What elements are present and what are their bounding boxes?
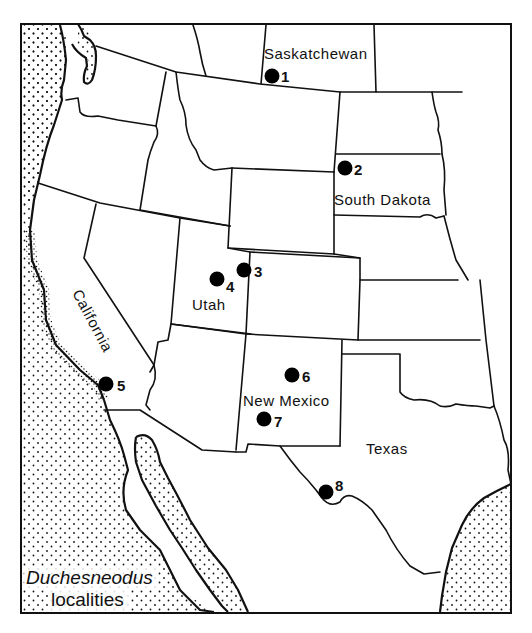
label-utah: Utah xyxy=(192,296,226,313)
locality-number-6: 6 xyxy=(302,368,310,385)
locality-dot-3 xyxy=(237,263,252,278)
legend-title: Duchesneodus xyxy=(26,567,153,588)
locality-number-5: 5 xyxy=(117,377,125,394)
locality-dot-4 xyxy=(210,272,225,287)
label-south-dakota: South Dakota xyxy=(334,191,431,208)
locality-dot-7 xyxy=(257,412,272,427)
locality-dot-8 xyxy=(319,485,334,500)
locality-number-4: 4 xyxy=(226,278,235,295)
locality-dot-6 xyxy=(285,368,300,383)
locality-number-7: 7 xyxy=(274,413,282,430)
label-texas: Texas xyxy=(366,440,408,457)
label-saskatchewan: Saskatchewan xyxy=(264,45,368,62)
locality-number-2: 2 xyxy=(354,161,362,178)
locality-dot-2 xyxy=(338,161,353,176)
duchesneodus-localities-map: Saskatchewan South Dakota Utah Californi… xyxy=(0,0,532,633)
locality-dot-1 xyxy=(265,69,280,84)
label-new-mexico: New Mexico xyxy=(243,392,330,409)
region-labels: Saskatchewan South Dakota Utah Californi… xyxy=(69,45,431,457)
locality-number-8: 8 xyxy=(335,477,343,494)
locality-number-3: 3 xyxy=(254,263,262,280)
locality-markers: 1 2 3 4 5 6 7 8 xyxy=(99,68,363,500)
legend-subtitle: localities xyxy=(51,589,124,610)
locality-number-1: 1 xyxy=(281,68,289,85)
gulf-of-mexico xyxy=(440,484,511,612)
locality-dot-5 xyxy=(99,377,114,392)
